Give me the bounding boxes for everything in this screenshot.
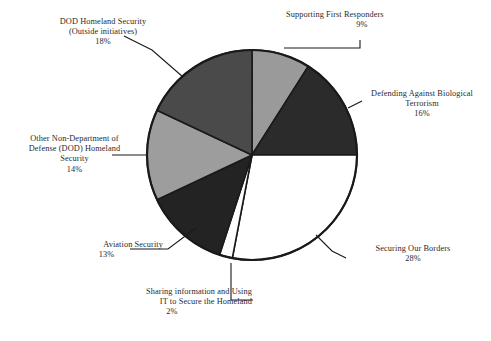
slice-label-text: DOD Homeland Security xyxy=(33,17,173,27)
slice-label-text: Securing Our Borders xyxy=(348,244,478,254)
pie-chart-figure: Supporting First Responders 9% Defending… xyxy=(0,0,491,341)
slice-label-text: Supporting First Responders xyxy=(286,10,456,20)
slice-label-other-non-dod: Other Non-Department of Defense (DOD) Ho… xyxy=(8,134,141,175)
slice-label-aviation-security: Aviation Security 13% xyxy=(50,240,163,260)
slice-label-text-2: Terrorism xyxy=(358,99,486,109)
leader-line-supporting-first-responders xyxy=(284,40,360,48)
slice-label-percent: 18% xyxy=(33,37,173,47)
slice-label-text-3: Security xyxy=(8,154,141,164)
slice-label-percent: 9% xyxy=(286,20,438,30)
slice-label-text: Sharing information and Using xyxy=(92,287,252,297)
slice-label-defending-biological-terrorism: Defending Against Biological Terrorism 1… xyxy=(358,89,486,120)
slice-label-text-2: (Outside initiatives) xyxy=(33,27,173,37)
slice-label-sharing-information: Sharing information and Using IT to Secu… xyxy=(92,287,252,318)
slice-label-text: Aviation Security xyxy=(50,240,163,250)
pie-slice xyxy=(232,155,357,260)
slice-label-text: Other Non-Department of xyxy=(8,134,141,144)
slice-label-securing-our-borders: Securing Our Borders 28% xyxy=(348,244,478,264)
slice-label-percent: 28% xyxy=(348,254,478,264)
leader-line-securing-our-borders xyxy=(316,235,346,258)
slice-label-dod-outside-initiatives: DOD Homeland Security (Outside initiativ… xyxy=(33,17,173,48)
slice-label-percent: 14% xyxy=(8,165,141,175)
slice-label-percent: 13% xyxy=(50,250,163,260)
slice-label-text: Defending Against Biological xyxy=(358,89,486,99)
slice-label-text-2: IT to Secure the Homeland xyxy=(92,297,252,307)
slice-label-percent: 2% xyxy=(92,307,252,317)
slice-label-text-2: Defense (DOD) Homeland xyxy=(8,144,141,154)
slice-label-percent: 16% xyxy=(358,109,486,119)
slice-label-supporting-first-responders: Supporting First Responders 9% xyxy=(286,10,456,30)
